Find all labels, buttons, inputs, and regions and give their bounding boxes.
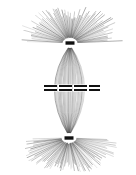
centriole-body [66, 41, 75, 44]
sister-chromatid-upper [89, 85, 100, 87]
sister-chromatid-lower [89, 89, 100, 91]
centriole-body [65, 136, 74, 139]
chromosome-3 [73, 84, 87, 91]
mitosis-figure: Black and white line drawing of a dividi… [0, 0, 136, 175]
chromosome-1 [43, 84, 57, 91]
sister-chromatid-lower [74, 89, 87, 91]
chromosome-2 [58, 84, 72, 91]
sister-chromatid-lower [44, 89, 57, 91]
sister-chromatid-upper [74, 85, 87, 87]
sister-chromatid-upper [59, 85, 72, 87]
chromosome-group [43, 84, 100, 91]
sister-chromatid-lower [59, 89, 72, 91]
chromosome-4 [88, 84, 100, 91]
sister-chromatid-upper [44, 85, 57, 87]
mitosis-illustration-canvas [0, 0, 136, 175]
